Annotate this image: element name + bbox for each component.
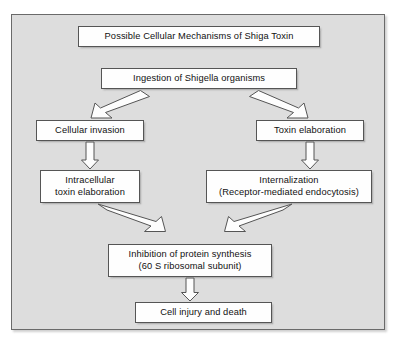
node-toxin-elaboration-line-1: Toxin elaboration bbox=[274, 125, 346, 136]
node-internalization-line-1: Internalization bbox=[259, 175, 318, 186]
node-internalization: Internalization (Receptor-mediated endoc… bbox=[206, 170, 372, 203]
node-ingestion: Ingestion of Shigella organisms bbox=[101, 68, 297, 89]
node-cell-injury-and-death-line-1: Cell injury and death bbox=[160, 307, 247, 318]
node-cell-injury-and-death: Cell injury and death bbox=[135, 302, 272, 323]
node-toxin-elaboration: Toxin elaboration bbox=[256, 120, 364, 141]
node-intracellular-toxin-elaboration: Intracellular toxin elaboration bbox=[40, 170, 140, 203]
node-intracellular-toxin-elaboration-line-2: toxin elaboration bbox=[55, 187, 125, 198]
node-inhibition-of-protein-synthesis: Inhibition of protein synthesis (60 S ri… bbox=[108, 244, 272, 277]
node-internalization-line-2: (Receptor-mediated endocytosis) bbox=[219, 187, 359, 198]
node-cellular-invasion: Cellular invasion bbox=[36, 120, 144, 141]
node-title-line-1: Possible Cellular Mechanisms of Shiga To… bbox=[105, 31, 294, 42]
node-cellular-invasion-line-1: Cellular invasion bbox=[55, 125, 125, 136]
node-inhibition-line-1: Inhibition of protein synthesis bbox=[129, 249, 252, 260]
flowchart-diagram: Possible Cellular Mechanisms of Shiga To… bbox=[0, 0, 406, 346]
node-title: Possible Cellular Mechanisms of Shiga To… bbox=[78, 26, 320, 47]
node-intracellular-toxin-elaboration-line-1: Intracellular bbox=[65, 175, 114, 186]
node-inhibition-line-2: (60 S ribosomal subunit) bbox=[139, 261, 242, 272]
node-ingestion-line-1: Ingestion of Shigella organisms bbox=[133, 73, 265, 84]
